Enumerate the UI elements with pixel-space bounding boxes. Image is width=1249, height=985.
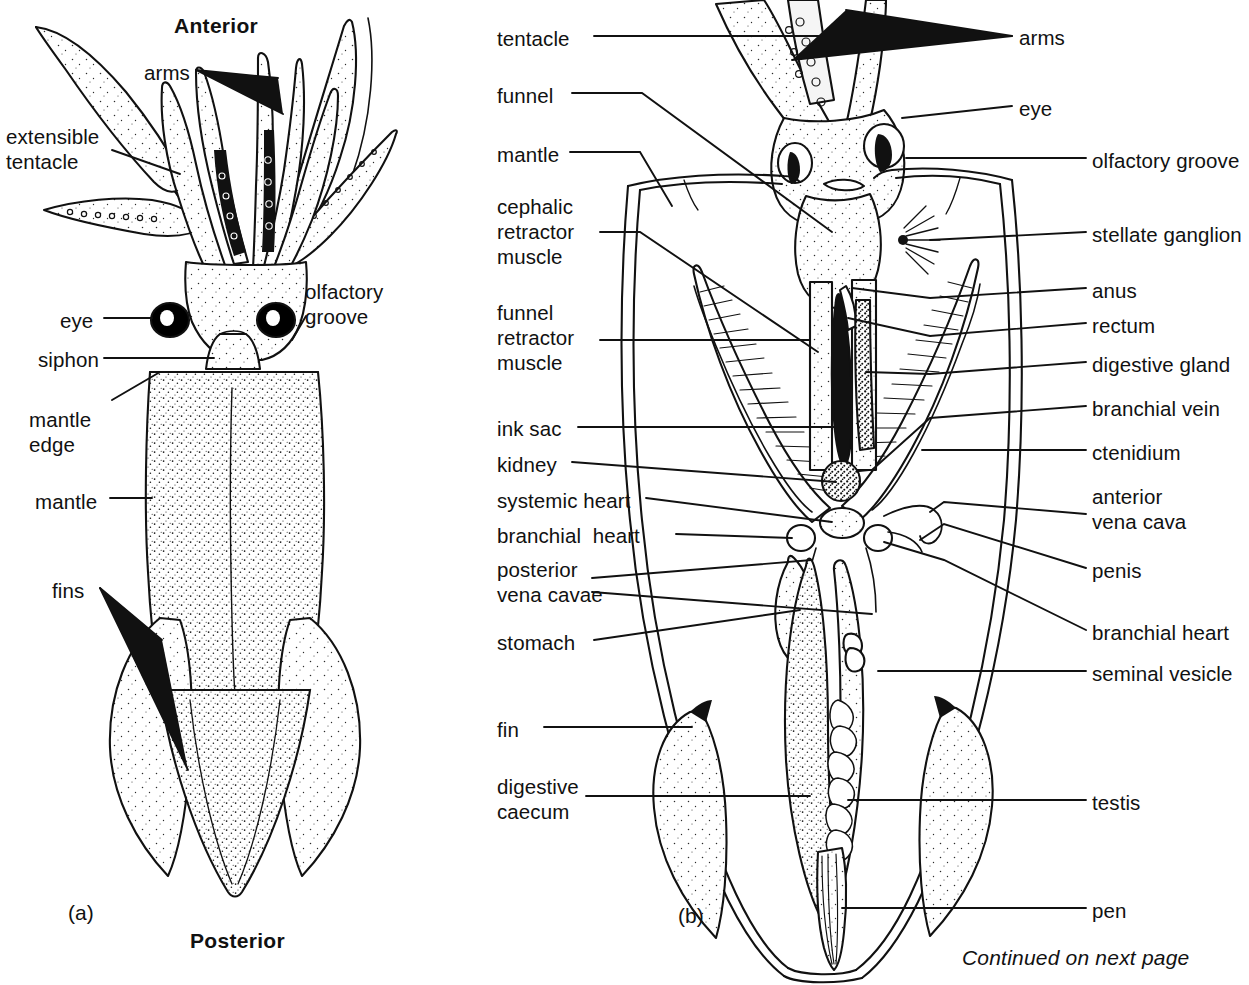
panel-b-label-ctenidium: ctenidium [1092,440,1181,465]
panel-b-right-leaders [792,10,1086,908]
panel-b-label-arms: arms [1019,25,1065,50]
panel-b-label-digestive-gland: digestive gland [1092,352,1230,377]
panel-b-label-branchial-heart: branchial heart [1092,620,1229,645]
panel-a-label-extensible-tentacle: extensible tentacle [6,124,99,174]
panel-b-key: (b) [678,903,704,928]
panel-b-label-fin: fin [497,717,519,742]
figure-root: Anterior arms extensible tentacle eye ol… [0,0,1249,985]
panel-a-key: (a) [68,900,94,925]
panel-b-label-anterior-vena-cava: anterior vena cava [1092,484,1186,534]
panel-b-label-anus: anus [1092,278,1137,303]
panel-b-label-testis: testis [1092,790,1140,815]
figure-continued-note: Continued on next page [962,945,1189,970]
panel-b-label-stomach: stomach [497,630,575,655]
panel-b-dissection-drawing [622,0,1022,982]
panel-a-label-olfactory-groove: olfactory groove [305,279,383,329]
panel-a-orientation-anterior: Anterior [174,13,258,38]
panel-b-label-funnel-retractor-muscle: funnel retractor muscle [497,300,574,375]
panel-b-label-kidney: kidney [497,452,557,477]
panel-a-label-arms: arms [144,60,190,85]
panel-b-label-ink-sac: ink sac [497,416,562,441]
panel-b-label-pen: pen [1092,898,1127,923]
panel-b-label-eye: eye [1019,96,1052,121]
panel-a-label-siphon: siphon [38,347,99,372]
panel-b-label-funnel: funnel [497,83,553,108]
panel-a-leaders [100,70,306,770]
panel-b-label-rectum: rectum [1092,313,1155,338]
panel-b-label-seminal-vesicle: seminal vesicle [1092,661,1233,686]
panel-b-label-branchial-vein: branchial vein [1092,396,1220,421]
panel-b-label-systemic-heart: systemic heart [497,488,631,513]
panel-a-label-mantle-edge: mantle edge [29,407,91,457]
panel-a-label-mantle: mantle [35,489,97,514]
panel-b-label-penis: penis [1092,558,1142,583]
panel-a-orientation-posterior: Posterior [190,928,285,953]
panel-a-label-eye: eye [60,308,93,333]
panel-a-label-fins: fins [52,578,84,603]
panel-b-label-posterior-vena-cavae: posterior vena cavae [497,557,603,607]
panel-b-label-tentacle: tentacle [497,26,570,51]
panel-b-label-cephalic-retractor-muscle: cephalic retractor muscle [497,194,574,269]
panel-b-label-branchial-heart: branchial heart [497,523,640,548]
panel-b-label-olfactory-groove: olfactory groove [1092,148,1239,173]
panel-b-label-stellate-ganglion: stellate ganglion [1092,222,1242,247]
panel-b-left-leaders [544,36,872,796]
panel-b-label-mantle: mantle [497,142,559,167]
panel-b-label-digestive-caecum: digestive caecum [497,774,579,824]
